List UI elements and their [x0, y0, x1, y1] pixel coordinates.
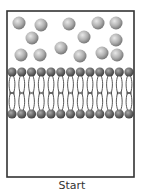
phospholipid-head — [17, 67, 26, 76]
phospholipid-head — [115, 109, 124, 118]
lipid-tail — [68, 92, 70, 111]
lipid-tail — [33, 92, 35, 111]
lipid-tail — [77, 92, 79, 111]
solute-molecule — [96, 47, 109, 60]
lipid-tail — [126, 75, 128, 94]
tail-junction — [79, 92, 82, 95]
lipid-tail — [23, 75, 25, 94]
lipid-tail — [42, 92, 44, 111]
phospholipid-head — [95, 67, 104, 76]
phospholipid-head — [27, 67, 36, 76]
lipid-tail — [52, 75, 54, 94]
lipid-tail — [19, 75, 21, 94]
lipid-tail — [29, 92, 31, 111]
lipid-tail — [72, 75, 74, 94]
phospholipid-head — [66, 67, 75, 76]
phospholipid-head — [7, 67, 16, 76]
lipid-tail — [97, 92, 99, 111]
solute-molecule — [110, 34, 123, 47]
lipid-tail — [81, 92, 83, 111]
phospholipid-head — [46, 67, 55, 76]
lipid-tail — [58, 75, 60, 94]
phospholipid-head — [37, 109, 46, 118]
lipid-tail — [52, 92, 54, 111]
solute-molecule — [63, 18, 76, 31]
solute-molecule — [74, 50, 87, 63]
tail-junction — [98, 92, 101, 95]
lipid-tail — [77, 75, 79, 94]
membrane-diagram — [0, 0, 144, 194]
phospholipid-head — [76, 67, 85, 76]
panel-caption: Start — [0, 179, 144, 192]
solute-molecule — [111, 49, 124, 62]
phospholipid-head — [124, 109, 133, 118]
phospholipid-head — [56, 109, 65, 118]
tail-junction — [69, 92, 72, 95]
solute-molecule — [34, 49, 47, 62]
phospholipid-head — [105, 109, 114, 118]
lipid-tail — [13, 75, 15, 94]
lipid-tail — [91, 75, 93, 94]
lipid-tail — [97, 75, 99, 94]
lipid-tail — [62, 92, 64, 111]
lipid-tail — [58, 92, 60, 111]
solute-molecule — [92, 17, 105, 30]
lipid-tail — [130, 75, 132, 94]
lipid-tail — [107, 92, 109, 111]
lipid-tail — [120, 92, 122, 111]
phospholipid-head — [115, 67, 124, 76]
lipid-tail — [42, 75, 44, 94]
lipid-tail — [38, 92, 40, 111]
lipid-tail — [48, 75, 50, 94]
lipid-tail — [9, 92, 11, 111]
lipid-tail — [107, 75, 109, 94]
tail-junction — [89, 92, 92, 95]
lipid-tail — [62, 75, 64, 94]
lipid-tail — [116, 92, 118, 111]
tail-junction — [118, 92, 121, 95]
solute-molecule — [15, 49, 28, 62]
phospholipid-head — [85, 67, 94, 76]
phospholipid-head — [105, 67, 114, 76]
phospholipid-head — [37, 67, 46, 76]
phospholipid-head — [7, 109, 16, 118]
lipid-tail — [116, 75, 118, 94]
lipid-tail — [130, 92, 132, 111]
lipid-tail — [101, 75, 103, 94]
lipid-tail — [72, 92, 74, 111]
lipid-tail — [101, 92, 103, 111]
solute-molecule — [110, 17, 123, 30]
lipid-tail — [48, 92, 50, 111]
lipid-tail — [38, 75, 40, 94]
lipid-tail — [29, 75, 31, 94]
lipid-tail — [13, 92, 15, 111]
lipid-tail — [19, 92, 21, 111]
lipid-tail — [33, 75, 35, 94]
phospholipid-head — [56, 67, 65, 76]
tail-junction — [108, 92, 111, 95]
solute-molecule — [55, 42, 68, 55]
lipid-tail — [120, 75, 122, 94]
phospholipid-head — [76, 109, 85, 118]
tail-junction — [20, 92, 23, 95]
solute-molecule — [35, 19, 48, 32]
tail-junction — [50, 92, 53, 95]
tail-junction — [59, 92, 62, 95]
tail-junction — [30, 92, 33, 95]
lipid-tail — [87, 75, 89, 94]
phospholipid-head — [95, 109, 104, 118]
phospholipid-head — [17, 109, 26, 118]
lipid-tail — [9, 75, 11, 94]
solute-molecules — [13, 17, 124, 63]
lipid-tail — [87, 92, 89, 111]
phospholipid-head — [66, 109, 75, 118]
phospholipid-head — [124, 67, 133, 76]
phospholipid-head — [85, 109, 94, 118]
tail-junction — [40, 92, 43, 95]
lipid-tail — [111, 75, 113, 94]
solute-molecule — [26, 32, 39, 45]
lipid-tails — [9, 75, 132, 111]
tail-junction — [128, 92, 131, 95]
solute-molecule — [78, 31, 91, 44]
lipid-tail — [81, 75, 83, 94]
